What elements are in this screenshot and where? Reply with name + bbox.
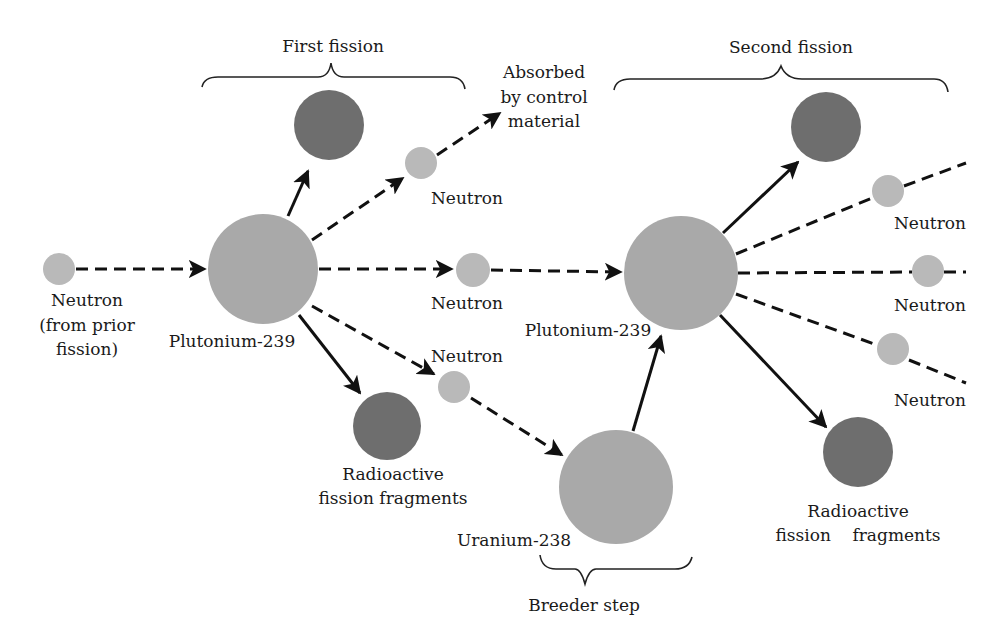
- breeder-step-label: Breeder step: [528, 595, 640, 615]
- neutron-r2-label: Neutron: [894, 295, 966, 315]
- neutron-r3-label: Neutron: [894, 390, 966, 410]
- neutron-mid-label: Neutron: [431, 293, 503, 313]
- absorbed-label-2: by control: [500, 87, 587, 107]
- edges-layer: [76, 113, 966, 455]
- second-fission-label: Second fission: [729, 37, 853, 57]
- neutron-low-to-u238-arrow: [471, 398, 562, 455]
- neutron-r1-label: Neutron: [894, 213, 966, 233]
- plutonium-239-b-circle: [624, 216, 738, 330]
- first-fission-label: First fission: [282, 36, 384, 56]
- neutron-absorbed-to-control-arrow: [437, 113, 500, 155]
- neutron-r3-out-arrow: [909, 360, 966, 383]
- neutron-low-label: Neutron: [431, 346, 503, 366]
- u238-to-pu-b-arrow: [633, 336, 661, 431]
- plutonium-239-a-label: Plutonium-239: [169, 331, 296, 351]
- pu-b-to-neutron-r2-arrow: [738, 272, 912, 273]
- neutron-prior-circle: [43, 253, 75, 285]
- fission-breeder-diagram: First fission Second fission Breeder ste…: [0, 0, 1000, 634]
- fragment-a-label-2: fission fragments: [319, 488, 468, 508]
- neutron-r2-circle: [912, 255, 944, 287]
- fragment-a-top-circle: [294, 90, 364, 160]
- fragment-a-label-1: Radioactive: [342, 464, 443, 484]
- uranium-238-circle: [559, 430, 673, 544]
- neutron-prior-label-2: (from prior: [39, 315, 135, 335]
- pu-a-to-neutron-low-arrow: [312, 306, 434, 374]
- plutonium-239-b-label: Plutonium-239: [525, 320, 652, 340]
- absorbed-label-1: Absorbed: [502, 62, 585, 82]
- neutron-absorbed-circle: [405, 147, 437, 179]
- neutron-mid-to-pu-b-arrow: [491, 270, 621, 272]
- pu-a-to-neutron-absorbed-arrow: [312, 178, 403, 240]
- fragment-b-label-2: fission fragments: [775, 525, 940, 545]
- pu-b-to-neutron-r1-arrow: [736, 198, 872, 254]
- neutron-low-circle: [438, 371, 470, 403]
- fragment-b-bottom-circle: [823, 417, 893, 487]
- fragment-b-top-circle: [791, 92, 861, 162]
- neutron-r1-circle: [872, 175, 904, 207]
- first-fission-brace: [202, 63, 465, 89]
- neutron-r3-circle: [877, 333, 909, 365]
- fragment-a-bottom-circle: [353, 392, 421, 460]
- fragment-b-label-1: Radioactive: [807, 501, 908, 521]
- neutron-prior-label: Neutron: [51, 290, 123, 310]
- neutron-mid-circle: [456, 253, 490, 287]
- pu-b-to-neutron-r3-arrow: [736, 294, 877, 345]
- neutron-r1-out-arrow: [904, 163, 966, 186]
- pu-b-to-frag-top-arrow: [723, 162, 798, 233]
- uranium-238-label: Uranium-238: [457, 530, 571, 550]
- second-fission-brace: [614, 66, 948, 92]
- pu-a-to-frag-top-arrow: [288, 171, 308, 216]
- absorbed-label-3: material: [508, 111, 580, 131]
- pu-b-to-frag-bottom-arrow: [720, 315, 826, 427]
- neutron-absorbed-label: Neutron: [431, 188, 503, 208]
- nodes-layer: [43, 90, 944, 544]
- plutonium-239-a-circle: [208, 214, 318, 324]
- neutron-prior-label-3: fission): [56, 339, 118, 359]
- breeder-step-brace: [540, 555, 692, 584]
